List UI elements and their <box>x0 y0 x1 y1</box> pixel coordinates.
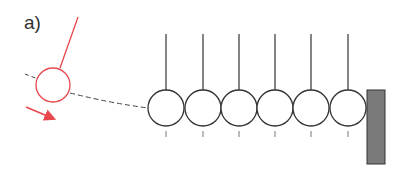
ball <box>257 90 293 126</box>
swing-path <box>70 93 148 108</box>
motion-arrow-icon <box>26 107 52 118</box>
swing-path-left <box>25 74 38 79</box>
ball <box>221 90 257 126</box>
ball <box>185 90 221 126</box>
raised-string <box>60 17 78 68</box>
ball <box>148 90 184 126</box>
ball <box>293 90 329 126</box>
cradle-drawing <box>0 0 404 173</box>
ball <box>330 90 366 126</box>
newtons-cradle-diagram: a) <box>0 0 404 173</box>
hanging-balls <box>148 34 366 137</box>
raised-ball <box>36 68 70 102</box>
wall <box>367 90 385 164</box>
